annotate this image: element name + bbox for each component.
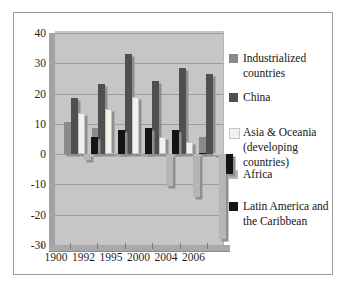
legend-item-china: China bbox=[229, 90, 335, 105]
y-tick-label: -10 bbox=[14, 177, 46, 191]
bar-africa-2000 bbox=[166, 154, 173, 186]
x-axis-tick bbox=[42, 243, 43, 249]
legend-label: Latin America and the Caribbean bbox=[243, 200, 329, 227]
legend-label: Africa bbox=[243, 168, 272, 180]
x-axis-tick bbox=[70, 243, 71, 249]
legend-swatch-icon bbox=[229, 128, 240, 139]
chart-frame: 403020100-10-20-30 190019921995200020042… bbox=[13, 12, 333, 275]
chart-page: 403020100-10-20-30 190019921995200020042… bbox=[0, 0, 344, 291]
x-axis-tick bbox=[152, 243, 153, 249]
legend-item-industrialized-countries: Industrialized countries bbox=[229, 51, 335, 81]
bar-asia-oceania-developing-countries-2004 bbox=[186, 142, 193, 154]
gridline-40 bbox=[55, 33, 223, 34]
legend-item-latin-america-and-the-caribbean: Latin America and the Caribbean bbox=[229, 199, 335, 229]
bar-latin-america-and-the-caribbean-1995 bbox=[145, 128, 152, 154]
bar-africa-2004 bbox=[193, 154, 200, 196]
y-tick-label: 10 bbox=[14, 117, 46, 131]
legend-label: Asia & Oceania (developing countries) bbox=[243, 126, 316, 168]
bar-asia-oceania-developing-countries-1900 bbox=[78, 113, 85, 154]
y-tick-label: 0 bbox=[14, 147, 46, 161]
x-tick-label-2006: 2006 bbox=[177, 250, 211, 264]
x-axis-tick bbox=[180, 243, 181, 249]
bar-asia-oceania-developing-countries-2000 bbox=[159, 137, 166, 154]
gridline-30 bbox=[55, 63, 223, 64]
x-axis-tick bbox=[125, 243, 126, 249]
bar-asia-oceania-developing-countries-1992 bbox=[105, 109, 112, 154]
gridline-20 bbox=[55, 94, 223, 95]
y-tick-label: 20 bbox=[14, 87, 46, 101]
legend-item-asia-oceania-developing-countries: Asia & Oceania (developing countries) bbox=[229, 125, 335, 170]
legend-label: China bbox=[243, 91, 270, 103]
bar-latin-america-and-the-caribbean-2006 bbox=[226, 154, 233, 174]
legend-label: Industrialized countries bbox=[243, 52, 306, 79]
y-tick-label: -20 bbox=[14, 208, 46, 222]
y-tick-label: 30 bbox=[14, 56, 46, 70]
y-tick-label: 40 bbox=[14, 26, 46, 40]
legend-item-africa: Africa bbox=[229, 167, 335, 182]
legend-swatch-icon bbox=[229, 54, 238, 63]
bar-africa-1900 bbox=[84, 154, 91, 160]
gridline--20 bbox=[55, 215, 223, 216]
bar-latin-america-and-the-caribbean-1992 bbox=[118, 130, 125, 154]
bar-latin-america-and-the-caribbean-2000 bbox=[172, 130, 179, 154]
bar-china-2006 bbox=[206, 74, 213, 154]
x-axis-tick bbox=[97, 243, 98, 249]
bar-latin-america-and-the-caribbean-2004 bbox=[199, 153, 206, 155]
bar-latin-america-and-the-caribbean-1900 bbox=[91, 137, 98, 154]
x-axis-tick bbox=[207, 243, 208, 249]
legend-swatch-icon bbox=[229, 93, 238, 102]
bar-asia-oceania-developing-countries-1995 bbox=[132, 97, 139, 155]
legend-swatch-icon bbox=[229, 202, 238, 211]
